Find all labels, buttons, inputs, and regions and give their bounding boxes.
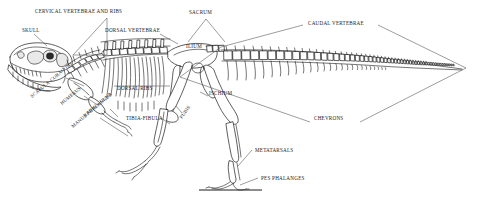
leader-metatarsals — [238, 150, 252, 166]
leader-sacrum-left — [188, 19, 206, 42]
label-pubis: PUBIS — [179, 104, 192, 119]
hindlimb-far-group — [204, 65, 249, 190]
label-ilium: ILIUM — [186, 43, 202, 49]
label-dorsal-ribs: DORSAL RIBS — [117, 85, 153, 91]
label-chevrons: CHEVRONS — [314, 115, 343, 121]
leader-pes-phalanges — [240, 178, 258, 185]
leader-cervical-left — [73, 18, 107, 55]
leader-caudal-left-top — [221, 25, 303, 47]
label-cervical-vertebrae-and-ribs: CERVICAL VERTEBRAE AND RIBS — [35, 8, 122, 14]
label-caudal-vertebrae: CAUDAL VERTEBRAE — [308, 20, 364, 26]
label-skull: SKULL — [22, 27, 40, 33]
skeleton-group — [8, 39, 462, 190]
skeleton-diagram: CERVICAL VERTEBRAE AND RIBS SKULL DORSAL… — [0, 0, 495, 201]
dorsal-vertebrae-group — [101, 39, 171, 60]
label-sacrum: SACRUM — [189, 9, 212, 15]
labels-group: CERVICAL VERTEBRAE AND RIBS SKULL DORSAL… — [22, 8, 364, 181]
leader-radius-ulna — [110, 109, 118, 117]
leader-diamond-left-lower — [180, 77, 310, 122]
label-ischium: ISCHIUM — [209, 90, 232, 96]
label-tibia-fibula: TIBIA-FIBULA — [126, 115, 163, 121]
caudal-vertebrae-group — [221, 46, 462, 80]
label-pes-phalanges: PES PHALANGES — [261, 175, 305, 181]
leader-diamond-right-lower — [360, 68, 466, 122]
label-metatarsals: METATARSALS — [255, 147, 293, 153]
leader-sacrum-right — [206, 19, 225, 42]
skeleton-illustration: CERVICAL VERTEBRAE AND RIBS SKULL DORSAL… — [0, 0, 495, 201]
label-dorsal-vertebrae: DORSAL VERTEBRAE — [105, 27, 160, 33]
dorsal-ribs-group — [102, 56, 164, 111]
